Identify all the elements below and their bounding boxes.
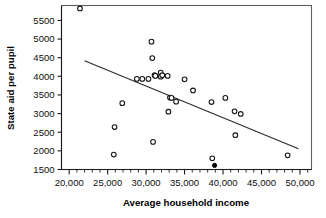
data-point	[112, 125, 117, 130]
x-axis-major-ticks	[69, 170, 300, 175]
data-point	[78, 6, 83, 11]
y-tick-label: 1500	[33, 164, 54, 175]
data-point	[238, 112, 243, 117]
data-point	[182, 77, 187, 82]
plot-canvas: 150020002500300035004000450050005500 20,…	[0, 0, 326, 218]
data-point	[285, 153, 290, 158]
data-points	[78, 6, 290, 167]
data-point	[111, 152, 116, 157]
data-point	[150, 56, 155, 61]
x-axis-minor-ticks	[62, 170, 312, 173]
data-point	[140, 77, 145, 82]
scatter-chart: 150020002500300035004000450050005500 20,…	[0, 0, 326, 218]
data-point	[160, 73, 165, 78]
data-point	[223, 96, 228, 101]
x-tick-label: 40,000	[209, 177, 238, 188]
x-tick-label: 30,000	[132, 177, 161, 188]
y-axis-title: State aid per pupil	[5, 46, 16, 130]
y-tick-label: 4000	[33, 71, 54, 82]
trendline-segment	[85, 61, 299, 149]
data-point	[146, 77, 151, 82]
y-tick-label: 2500	[33, 127, 54, 138]
x-axis-title: Average household income	[123, 197, 250, 208]
data-point	[166, 109, 171, 114]
data-point	[151, 140, 156, 145]
data-point	[120, 101, 125, 106]
data-point	[209, 100, 214, 105]
data-point	[135, 77, 140, 82]
data-point-highlighted	[212, 163, 216, 167]
y-tick-label: 4500	[33, 52, 54, 63]
y-axis-ticks	[58, 6, 62, 170]
y-tick-label: 2000	[33, 145, 54, 156]
x-tick-label: 25,000	[93, 177, 122, 188]
data-point	[149, 39, 154, 44]
data-point	[191, 88, 196, 93]
x-axis-tick-labels: 20,00025,00030,00035,00040,00045,00050,0…	[55, 177, 315, 188]
data-point	[210, 156, 215, 161]
y-tick-label: 5500	[33, 15, 54, 26]
data-point	[169, 96, 174, 101]
plot-frame	[62, 6, 312, 170]
x-tick-label: 20,000	[55, 177, 84, 188]
x-tick-label: 50,000	[285, 177, 314, 188]
y-tick-label: 5000	[33, 33, 54, 44]
y-axis-tick-labels: 150020002500300035004000450050005500	[33, 15, 54, 175]
x-tick-label: 45,000	[247, 177, 276, 188]
data-point	[233, 133, 238, 138]
data-point	[232, 109, 237, 114]
y-tick-label: 3000	[33, 108, 54, 119]
y-tick-label: 3500	[33, 89, 54, 100]
data-point	[153, 74, 158, 79]
x-tick-label: 35,000	[170, 177, 199, 188]
trendline	[85, 61, 299, 149]
data-point	[174, 99, 179, 104]
data-point	[165, 74, 170, 79]
